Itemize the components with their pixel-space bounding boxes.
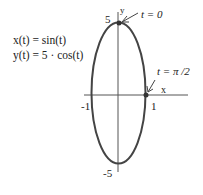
tick-label-x-1: 1	[151, 101, 157, 112]
arrow-tpi2	[147, 80, 155, 92]
axis-label-y: y	[120, 5, 125, 16]
annotation-t0: t = 0	[141, 9, 162, 20]
annotation-tpi2: t = π /2	[157, 66, 190, 77]
point-t0	[117, 21, 122, 26]
tick-label-y-5: 5	[105, 14, 111, 25]
parametric-plot	[0, 0, 203, 195]
equation-y: y(t) = 5 · cos(t)	[13, 48, 83, 62]
tick-label-y-neg5: -5	[103, 168, 112, 179]
equation-x: x(t) = sin(t)	[13, 33, 66, 47]
tick-label-x-neg1: -1	[81, 101, 90, 112]
point-tpi2	[144, 93, 149, 98]
axis-label-x: x	[161, 84, 166, 95]
